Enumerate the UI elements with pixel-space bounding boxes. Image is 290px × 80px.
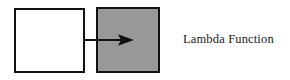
lambda-function-label: Lambda Function — [183, 29, 283, 49]
input-node-box[interactable] — [14, 8, 85, 73]
arrow-connector-icon — [84, 30, 136, 50]
diagram-canvas: Lambda Function — [0, 0, 290, 80]
